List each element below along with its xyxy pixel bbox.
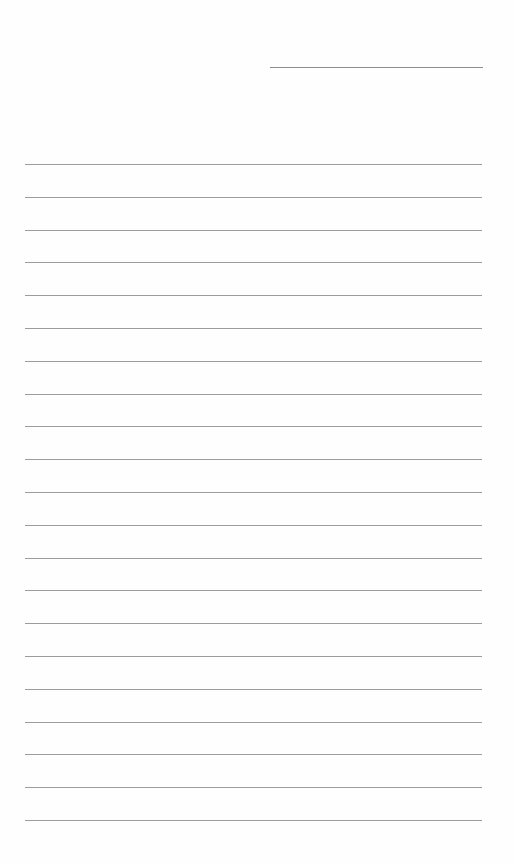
ruled-line: [25, 590, 482, 591]
ruled-line: [25, 820, 482, 821]
ruled-line: [25, 525, 482, 526]
date-line: [270, 67, 483, 68]
ruled-line: [25, 295, 482, 296]
ruled-line: [25, 722, 482, 723]
ruled-line: [25, 689, 482, 690]
ruled-line: [25, 164, 482, 165]
ruled-line: [25, 262, 482, 263]
ruled-line: [25, 623, 482, 624]
ruled-line: [25, 459, 482, 460]
ruled-line: [25, 656, 482, 657]
notepaper-page: [0, 0, 514, 864]
ruled-line: [25, 558, 482, 559]
ruled-line: [25, 197, 482, 198]
ruled-line: [25, 492, 482, 493]
ruled-line: [25, 787, 482, 788]
ruled-line: [25, 230, 482, 231]
ruled-line: [25, 361, 482, 362]
ruled-line: [25, 754, 482, 755]
ruled-line: [25, 328, 482, 329]
ruled-line: [25, 394, 482, 395]
ruled-line: [25, 426, 482, 427]
